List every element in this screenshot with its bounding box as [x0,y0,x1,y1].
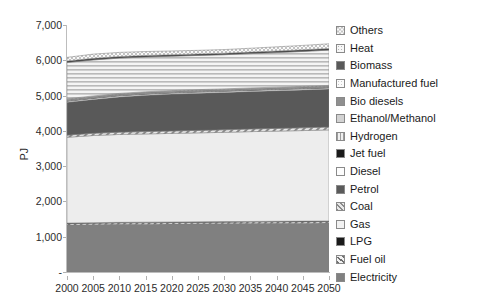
area-series-gas [67,130,329,223]
x-tick-label: 2030 [213,282,236,294]
y-tick-label: 6,000 [14,55,62,66]
legend-label: Gas [350,219,370,230]
x-tick-label: 2015 [134,282,157,294]
x-tick-mark [224,276,225,280]
x-tick-mark [67,276,68,280]
legend-item-others[interactable]: Others [336,22,484,40]
x-tick-mark [93,276,94,280]
light-solid-swatch [336,114,345,123]
legend-item-petrol[interactable]: Petrol [336,180,484,198]
legend-item-biomass[interactable]: Biomass [336,57,484,75]
dark-solid-swatch [336,61,345,70]
dotted-swatch [336,44,345,53]
legend-label: Petrol [350,184,379,195]
y-tick-label: 5,000 [14,90,62,101]
x-tick-mark [250,276,251,280]
x-tick-label: 2010 [108,282,131,294]
legend-item-fuel-oil[interactable]: Fuel oil [336,251,484,269]
legend-label: Fuel oil [350,254,385,265]
legend-label: Heat [350,43,373,54]
diagonal-hatch-swatch [336,255,345,264]
legend-label: Diesel [350,166,381,177]
plot-area [67,25,329,272]
y-tick-label: 2,000 [14,196,62,207]
x-tick-mark [119,276,120,280]
chart-legend: OthersHeatBiomassManufactured fuelBio di… [336,22,484,286]
stacked-area-chart: PJ -1,0002,0003,0004,0005,0006,0007,000 [0,0,485,306]
legend-label: Hydrogen [350,131,398,142]
y-tick-label: 1,000 [14,231,62,242]
x-tick-label: 2025 [186,282,209,294]
legend-label: Bio diesels [350,96,403,107]
mid-solid-swatch [336,97,345,106]
black-solid-swatch [336,237,345,246]
x-tick-mark [198,276,199,280]
legend-item-gas[interactable]: Gas [336,216,484,234]
x-tick-label: 2020 [160,282,183,294]
y-tick-label: 7,000 [14,20,62,31]
legend-label: Manufactured fuel [350,78,438,89]
legend-label: Others [350,25,383,36]
x-tick-label: 2035 [239,282,262,294]
area-series-electricity [67,223,329,272]
legend-label: LPG [350,236,372,247]
vertical-lines-swatch [336,132,345,141]
legend-item-coal[interactable]: Coal [336,198,484,216]
legend-item-bio-diesels[interactable]: Bio diesels [336,92,484,110]
y-axis-ticks: -1,0002,0003,0004,0005,0006,0007,000 [14,0,62,306]
gray-solid-swatch [336,273,345,282]
verylight-solid-swatch [336,220,345,229]
light-dotted-swatch [336,79,345,88]
y-tick-label: 4,000 [14,126,62,137]
legend-item-hydrogen[interactable]: Hydrogen [336,128,484,146]
x-axis-line [66,272,330,273]
legend-item-jet-fuel[interactable]: Jet fuel [336,145,484,163]
legend-item-manufactured-fuel[interactable]: Manufactured fuel [336,75,484,93]
x-tick-mark [172,276,173,280]
x-tick-label: 2005 [82,282,105,294]
x-tick-mark [329,276,330,280]
cross-hatch-swatch [336,202,345,211]
legend-label: Electricity [350,272,397,283]
white-solid-swatch [336,167,345,176]
legend-item-lpg[interactable]: LPG [336,233,484,251]
x-tick-label: 2000 [55,282,78,294]
legend-label: Jet fuel [350,148,385,159]
stacked-area-svg [67,25,329,272]
x-tick-label: 2040 [265,282,288,294]
legend-item-ethanol-methanol[interactable]: Ethanol/Methanol [336,110,484,128]
legend-label: Coal [350,201,373,212]
x-tick-mark [146,276,147,280]
checker-swatch [336,26,345,35]
x-tick-mark [277,276,278,280]
legend-item-electricity[interactable]: Electricity [336,268,484,286]
legend-item-diesel[interactable]: Diesel [336,163,484,181]
x-tick-mark [303,276,304,280]
legend-label: Ethanol/Methanol [350,113,436,124]
x-tick-label: 2045 [291,282,314,294]
legend-label: Biomass [350,60,392,71]
darkgray-solid-swatch [336,185,345,194]
y-tick-label: 3,000 [14,161,62,172]
black-solid-swatch [336,149,345,158]
legend-item-heat[interactable]: Heat [336,40,484,58]
